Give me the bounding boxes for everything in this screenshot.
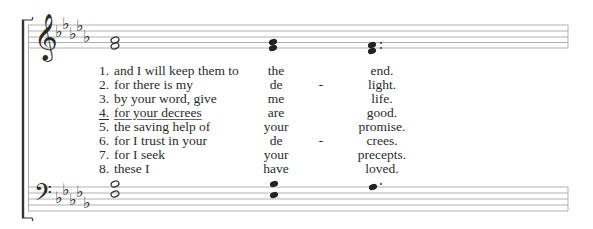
verse-number: 4.	[93, 106, 109, 120]
treble-key-signature: ♭ ♭ ♭ ♭ ♭	[55, 14, 91, 46]
verse-text: for your decrees	[114, 106, 202, 120]
verse-mid-syllable: de	[246, 134, 306, 148]
treble-chord-2	[268, 38, 278, 53]
verse-mid-syllable: have	[246, 162, 306, 176]
verse-number: 2.	[93, 78, 109, 92]
verse-end-word: crees.	[342, 134, 422, 148]
svg-text:♭: ♭	[83, 193, 91, 212]
verse-mid-syllable: your	[246, 148, 306, 162]
verse-mid-syllable: the	[246, 64, 306, 78]
verse-text: for there is my	[114, 78, 193, 92]
verse-end-word: light.	[342, 78, 422, 92]
verse-hyphen: -	[316, 134, 326, 148]
svg-text:♭: ♭	[83, 27, 91, 46]
treble-staff	[28, 25, 568, 48]
verse-hyphen: -	[316, 78, 326, 92]
verse-mid-syllable: your	[246, 120, 306, 134]
bass-staff	[28, 187, 568, 211]
verse-end-word: precepts.	[342, 148, 422, 162]
verse-text: these I	[114, 162, 150, 176]
bass-chord-2	[269, 180, 279, 200]
verse-end-word: loved.	[342, 162, 422, 176]
verse-number: 5.	[93, 120, 109, 134]
verse-text: for I seek	[114, 148, 165, 162]
verse-number: 1.	[93, 64, 109, 78]
bass-chord-1	[110, 180, 119, 198]
verse-end-word: life.	[342, 92, 422, 106]
verse-text: by your word, give	[114, 92, 217, 106]
verse-number: 8.	[93, 162, 109, 176]
bass-clef-icon: 𝄢	[34, 179, 52, 212]
verse-number: 3.	[93, 92, 109, 106]
verse-number: 6.	[93, 134, 109, 148]
verse-number: 7.	[93, 148, 109, 162]
verse-end-word: good.	[342, 106, 422, 120]
verse-text-content: for your decrees	[114, 105, 202, 120]
verse-mid-syllable: de	[246, 78, 306, 92]
verse-text: and I will keep them to	[114, 64, 239, 78]
verse-mid-syllable: me	[246, 92, 306, 106]
verse-mid-syllable: are	[246, 106, 306, 120]
verse-text: the saving help of	[114, 120, 210, 134]
verse-end-word: promise.	[342, 120, 422, 134]
verse-end-word: end.	[342, 64, 422, 78]
bass-key-signature: ♭ ♭ ♭ ♭ ♭	[55, 180, 91, 212]
verse-text: for I trust in your	[114, 134, 207, 148]
